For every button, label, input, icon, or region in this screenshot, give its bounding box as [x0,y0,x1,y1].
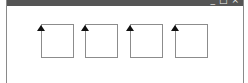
minimize-button[interactable]: _ [210,0,215,5]
up-arrow-icon [171,25,179,31]
up-arrow-icon [81,25,89,31]
box-4[interactable] [175,24,208,58]
app-window: _ □ × [6,0,244,83]
box-1[interactable] [41,24,74,58]
close-button[interactable]: × [231,0,239,5]
window-controls: _ □ × [210,0,239,5]
box-2[interactable] [85,24,118,58]
up-arrow-icon [126,25,134,31]
title-bar[interactable]: _ □ × [7,0,243,6]
maximize-button[interactable]: □ [219,0,228,5]
up-arrow-icon [37,25,45,31]
box-3[interactable] [130,24,163,58]
